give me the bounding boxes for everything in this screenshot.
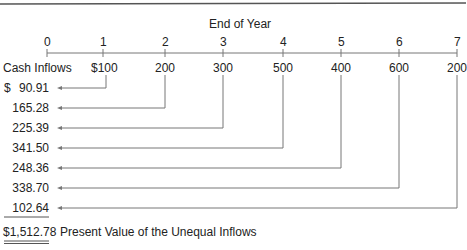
year-label: 6 xyxy=(396,35,403,49)
year-label: 3 xyxy=(220,35,227,49)
year-label: 5 xyxy=(338,35,345,49)
inflow-value: 300 xyxy=(213,61,233,75)
inflow-value: 200 xyxy=(155,61,175,75)
currency-symbol: $ xyxy=(4,81,11,95)
inflow-value: 200 xyxy=(447,61,467,75)
inflow-value: 400 xyxy=(331,61,351,75)
inflow-value: 500 xyxy=(273,61,293,75)
top-rule xyxy=(0,3,466,4)
year-label: 4 xyxy=(280,35,287,49)
total-value: $1,512.78 xyxy=(3,225,56,239)
year-label: 7 xyxy=(454,35,461,49)
year-label: 2 xyxy=(162,35,169,49)
present-value: 90.91 xyxy=(18,81,49,95)
arrow-heads xyxy=(57,86,62,210)
present-value: 165.28 xyxy=(8,101,49,115)
year-label: 0 xyxy=(44,35,51,49)
year-label: 1 xyxy=(100,35,107,49)
present-value: 248.36 xyxy=(8,161,49,175)
present-value: 338.70 xyxy=(8,181,49,195)
discount-arrows xyxy=(60,75,457,208)
inflow-value: 600 xyxy=(389,61,409,75)
present-value: 102.64 xyxy=(8,201,49,215)
present-value: 341.50 xyxy=(8,141,49,155)
present-value: 225.39 xyxy=(8,121,49,135)
inflow-value: $100 xyxy=(91,61,118,75)
total-label: Present Value of the Unequal Inflows xyxy=(60,225,257,239)
row-label: Cash Inflows xyxy=(3,61,72,75)
diagram-title: End of Year xyxy=(209,17,271,31)
